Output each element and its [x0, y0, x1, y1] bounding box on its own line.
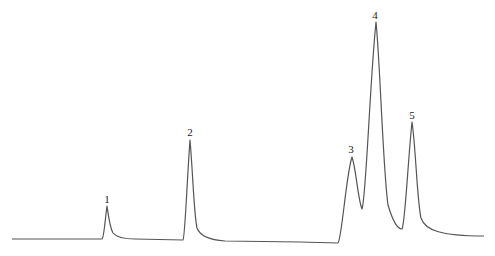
- peak-label-2: 2: [187, 126, 193, 138]
- peak-label-4: 4: [372, 9, 378, 21]
- peak-label-1: 1: [104, 193, 110, 205]
- chromatogram-chart: 1 2 3 4 5: [0, 0, 495, 256]
- peak-label-3: 3: [348, 143, 354, 155]
- chromatogram-trace: [12, 22, 484, 243]
- peak-label-5: 5: [409, 109, 415, 121]
